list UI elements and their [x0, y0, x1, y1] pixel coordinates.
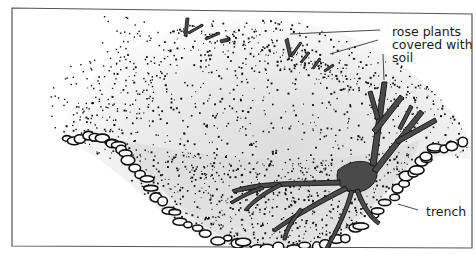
soil-dot: [202, 71, 203, 72]
soil-dot: [181, 216, 183, 218]
soil-dot: [73, 77, 74, 78]
soil-dot: [169, 188, 170, 189]
soil-dot: [256, 163, 257, 164]
soil-dot: [303, 199, 305, 201]
soil-dot: [404, 162, 405, 163]
soil-dot: [229, 42, 230, 43]
soil-dot: [253, 168, 255, 170]
soil-dot: [173, 157, 175, 159]
soil-dot: [367, 196, 368, 197]
soil-dot: [229, 185, 230, 186]
soil-dot: [319, 79, 320, 80]
soil-dot: [148, 35, 149, 36]
soil-dot: [142, 92, 143, 93]
soil-dot: [322, 31, 323, 32]
soil-dot: [434, 114, 435, 115]
soil-dot: [137, 132, 138, 133]
soil-dot: [218, 136, 220, 138]
soil-dot: [303, 174, 304, 175]
soil-dot: [203, 192, 205, 194]
soil-dot: [319, 33, 321, 35]
soil-dot: [86, 107, 87, 108]
soil-dot: [336, 98, 337, 99]
soil-dot: [195, 103, 196, 104]
soil-dot: [102, 42, 103, 43]
soil-dot: [249, 171, 251, 173]
soil-dot: [300, 166, 301, 167]
soil-dot: [201, 223, 202, 224]
trench-stone: [420, 152, 432, 161]
soil-dot: [80, 116, 81, 117]
soil-dot: [206, 174, 207, 175]
soil-dot: [257, 242, 258, 243]
soil-dot: [208, 72, 209, 73]
soil-dot: [359, 137, 360, 138]
soil-dot: [391, 86, 392, 87]
soil-dot: [346, 223, 347, 224]
soil-dot: [136, 113, 137, 114]
soil-dot: [335, 141, 336, 142]
soil-dot: [211, 24, 212, 25]
soil-dot: [301, 56, 303, 58]
soil-dot: [262, 237, 264, 239]
soil-dot: [344, 113, 346, 115]
soil-dot: [293, 31, 295, 33]
soil-dot: [324, 74, 325, 75]
soil-dot: [229, 93, 230, 94]
soil-dot: [392, 77, 393, 78]
soil-dot: [430, 132, 431, 133]
soil-dot: [148, 151, 149, 152]
soil-dot: [408, 154, 409, 155]
soil-dot: [227, 68, 228, 69]
soil-dot: [280, 57, 281, 58]
soil-dot: [291, 200, 292, 201]
soil-dot: [203, 166, 204, 167]
soil-dot: [137, 156, 139, 158]
soil-dot: [361, 214, 362, 215]
soil-dot: [253, 234, 255, 236]
soil-dot: [266, 207, 267, 208]
soil-dot: [227, 198, 228, 199]
soil-dot: [179, 143, 181, 145]
soil-dot: [232, 52, 234, 54]
soil-dot: [380, 196, 381, 197]
soil-dot: [333, 109, 334, 110]
soil-dot: [280, 29, 282, 31]
soil-dot: [166, 122, 168, 124]
soil-dot: [264, 110, 265, 111]
soil-dot: [86, 121, 88, 123]
soil-dot: [213, 152, 215, 154]
soil-dot: [403, 129, 404, 130]
soil-dot: [137, 33, 138, 34]
soil-dot: [209, 186, 210, 187]
soil-dot: [272, 234, 273, 235]
soil-dot: [169, 156, 170, 157]
soil-dot: [119, 129, 120, 130]
soil-dot: [81, 132, 82, 133]
soil-dot: [294, 110, 295, 111]
soil-dot: [242, 126, 243, 127]
soil-dot: [242, 74, 243, 75]
soil-dot: [398, 171, 399, 172]
soil-dot: [168, 50, 169, 51]
soil-dot: [415, 87, 417, 89]
soil-dot: [299, 189, 300, 190]
soil-dot: [256, 141, 257, 142]
soil-dot: [294, 202, 296, 204]
soil-dot: [182, 161, 184, 163]
soil-dot: [230, 217, 231, 218]
soil-dot: [76, 83, 77, 84]
soil-dot: [78, 106, 79, 107]
soil-dot: [325, 190, 327, 192]
soil-dot: [271, 164, 272, 165]
soil-dot: [127, 41, 128, 42]
soil-dot: [140, 156, 141, 157]
soil-dot: [281, 236, 283, 238]
soil-dot: [213, 224, 215, 226]
soil-dot: [357, 74, 358, 75]
soil-dot: [303, 67, 305, 69]
soil-dot: [132, 104, 133, 105]
soil-dot: [455, 155, 456, 156]
soil-dot: [373, 75, 375, 77]
soil-dot: [211, 43, 212, 44]
